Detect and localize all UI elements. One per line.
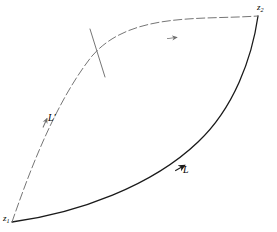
label-solid-path-L: L [183, 165, 189, 175]
contour-diagram-svg [0, 0, 277, 232]
arrowhead-L-prime-upper-icon [167, 37, 177, 38]
label-z1-subscript: 1 [7, 218, 10, 224]
figure-canvas: z1 z2 L L′ [0, 0, 277, 232]
label-z2-subscript: 2 [261, 7, 264, 13]
arrowhead-L-prime-lower-icon [43, 118, 47, 127]
transversal-tick-mark [90, 29, 105, 77]
label-dashed-path-L-prime: L′ [48, 113, 56, 123]
label-start-point-z1: z1 [3, 214, 10, 224]
label-end-point-z2: z2 [257, 3, 264, 13]
